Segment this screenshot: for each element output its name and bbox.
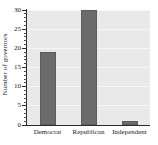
plot-inner xyxy=(27,10,150,125)
y-tick-minor xyxy=(24,113,27,114)
y-tick-minor xyxy=(24,52,27,53)
y-tick-minor xyxy=(24,63,27,64)
y-tick-label: 5 xyxy=(7,102,21,109)
bar-republican xyxy=(81,10,97,125)
y-tick-major xyxy=(22,10,27,11)
y-tick-major xyxy=(22,86,27,87)
y-tick-minor xyxy=(24,40,27,41)
y-tick-minor xyxy=(24,17,27,18)
plot-area xyxy=(27,10,150,125)
y-tick-minor xyxy=(24,56,27,57)
y-tick-minor xyxy=(24,121,27,122)
y-tick-minor xyxy=(24,102,27,103)
y-tick-major xyxy=(22,67,27,68)
y-tick-minor xyxy=(24,82,27,83)
y-tick-minor xyxy=(24,21,27,22)
y-tick-minor xyxy=(24,79,27,80)
y-tick-minor xyxy=(24,13,27,14)
bar-chart-figure: Number of governors 051015202530 Democra… xyxy=(0,0,157,145)
y-tick-minor xyxy=(24,94,27,95)
y-tick-major xyxy=(22,29,27,30)
y-tick-minor xyxy=(24,71,27,72)
x-category-label: Independent xyxy=(100,128,158,137)
y-tick-major xyxy=(22,48,27,49)
y-tick-minor xyxy=(24,117,27,118)
y-tick-label: 10 xyxy=(7,83,21,90)
y-tick-minor xyxy=(24,44,27,45)
bar-democrat xyxy=(40,52,56,125)
x-axis-line xyxy=(26,125,150,126)
y-tick-minor xyxy=(24,75,27,76)
y-tick-minor xyxy=(24,59,27,60)
y-tick-minor xyxy=(24,33,27,34)
y-tick-label: 30 xyxy=(7,7,21,14)
y-tick-minor xyxy=(24,25,27,26)
y-tick-major xyxy=(22,125,27,126)
y-tick-label: 15 xyxy=(7,64,21,71)
y-tick-minor xyxy=(24,98,27,99)
y-tick-major xyxy=(22,105,27,106)
y-tick-minor xyxy=(24,109,27,110)
y-tick-label: 20 xyxy=(7,45,21,52)
y-tick-minor xyxy=(24,36,27,37)
y-tick-label: 25 xyxy=(7,26,21,33)
y-tick-minor xyxy=(24,90,27,91)
